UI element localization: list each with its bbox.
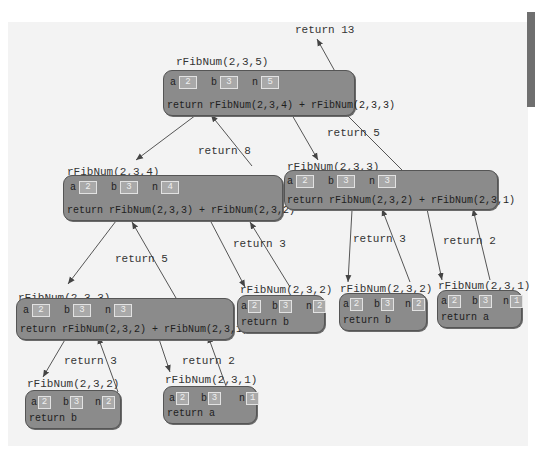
var-a-label: a [287, 176, 293, 187]
var-n-value: 2 [102, 396, 115, 409]
var-b-value: 3 [337, 175, 355, 188]
stack-frame: a2 b3 n3 return rFibNum(2,3,2) + rFibNum… [284, 170, 498, 210]
frame-body: return rFibNum(2,3,2) + rFibNum(2,3,1) [287, 195, 515, 206]
var-a-label: a [169, 393, 175, 404]
stack-frame: a2 b3 n2 return b [237, 295, 325, 333]
var-a-label: a [441, 296, 447, 307]
var-b-label: b [211, 77, 217, 88]
var-b-value: 3 [120, 181, 138, 194]
var-b-label: b [63, 397, 69, 408]
call-label: rFibNum(2,3,2) [27, 378, 119, 390]
return-label: return 2 [182, 355, 235, 367]
var-a-label: a [170, 77, 176, 88]
var-n-label: n [239, 393, 245, 404]
frame-body: return rFibNum(2,3,2) + rFibNum(2,3,1) [20, 324, 248, 335]
call-label: rFibNum(2,3,5) [176, 56, 268, 68]
var-n-value: 5 [261, 76, 279, 89]
frame-body: return rFibNum(2,3,4) + rFibNum(2,3,3) [167, 100, 395, 111]
stack-frame: a2 b3 n2 return b [339, 293, 427, 331]
return-label: return 3 [233, 238, 286, 250]
var-n-label: n [369, 176, 375, 187]
frame-body: return a [167, 408, 215, 419]
frame-vars: a2 b3 n1 [169, 392, 267, 405]
frame-vars: a2 b3 n4 [70, 181, 187, 194]
var-b-value: 3 [279, 300, 292, 313]
var-a-value: 2 [296, 175, 314, 188]
var-n-label: n [105, 305, 111, 316]
stack-frame: a2 b3 n3 return rFibNum(2,3,2) + rFibNum… [16, 298, 234, 340]
var-a-label: a [241, 301, 247, 312]
frame-body: return b [29, 413, 77, 424]
var-b-value: 3 [73, 304, 91, 317]
return-label: return 13 [295, 24, 354, 36]
var-a-value: 2 [79, 181, 97, 194]
return-label: return 3 [64, 355, 117, 367]
frame-vars: a2 b3 n2 [31, 396, 123, 409]
var-b-label: b [472, 296, 478, 307]
var-a-value: 2 [448, 295, 461, 308]
var-a-label: a [343, 299, 349, 310]
var-n-label: n [252, 77, 258, 88]
frame-vars: a2 b3 n3 [23, 304, 140, 317]
var-a-label: a [70, 182, 76, 193]
var-a-value: 2 [179, 76, 197, 89]
stack-frame: a2 b3 n2 return b [25, 390, 121, 429]
frame-vars: a2 b3 n2 [241, 300, 334, 313]
return-label: return 5 [327, 127, 380, 139]
stack-frame: a2 b3 n1 return a [437, 290, 522, 328]
var-n-value: 2 [412, 298, 425, 311]
var-n-value: 3 [378, 175, 396, 188]
var-n-label: n [306, 301, 312, 312]
call-label: rFibNum(2,3,1) [165, 374, 257, 386]
var-a-value: 2 [248, 300, 261, 313]
var-n-label: n [405, 299, 411, 310]
stack-frame: a2 b3 n5 return rFibNum(2,3,4) + rFibNum… [163, 70, 355, 116]
var-b-label: b [374, 299, 380, 310]
var-n-label: n [152, 182, 158, 193]
var-n-value: 1 [246, 392, 259, 405]
return-label: return 5 [115, 253, 168, 265]
var-n-value: 3 [114, 304, 132, 317]
frame-body: return b [241, 317, 289, 328]
var-n-value: 1 [510, 295, 523, 308]
var-a-label: a [31, 397, 37, 408]
return-label: return 8 [198, 145, 251, 157]
frame-vars: a2 b3 n1 [441, 295, 531, 308]
var-b-value: 3 [208, 392, 221, 405]
frame-body: return b [343, 315, 391, 326]
var-n-label: n [95, 397, 101, 408]
var-a-value: 2 [350, 298, 363, 311]
var-a-label: a [23, 305, 29, 316]
var-a-value: 2 [32, 304, 50, 317]
var-n-value: 2 [313, 300, 326, 313]
stack-frame: a2 b3 n4 return rFibNum(2,3,3) + rFibNum… [63, 175, 283, 221]
var-n-label: n [503, 296, 509, 307]
return-label: return 3 [353, 233, 406, 245]
var-b-label: b [64, 305, 70, 316]
var-b-label: b [272, 301, 278, 312]
var-b-value: 3 [381, 298, 394, 311]
var-a-value: 2 [176, 392, 189, 405]
var-n-value: 4 [161, 181, 179, 194]
var-a-value: 2 [38, 396, 51, 409]
var-b-label: b [201, 393, 207, 404]
frame-vars: a2 b3 n2 [343, 298, 433, 311]
var-b-label: b [328, 176, 334, 187]
frame-vars: a2 b3 n5 [170, 76, 287, 89]
frame-body: return rFibNum(2,3,3) + rFibNum(2,3,2) [67, 205, 295, 216]
frame-body: return a [441, 312, 489, 323]
frame-vars: a2 b3 n3 [287, 175, 404, 188]
var-b-value: 3 [479, 295, 492, 308]
return-label: return 2 [443, 235, 496, 247]
stack-frame: a2 b3 n1 return a [163, 386, 257, 424]
var-b-value: 3 [220, 76, 238, 89]
var-b-label: b [111, 182, 117, 193]
var-b-value: 3 [70, 396, 83, 409]
